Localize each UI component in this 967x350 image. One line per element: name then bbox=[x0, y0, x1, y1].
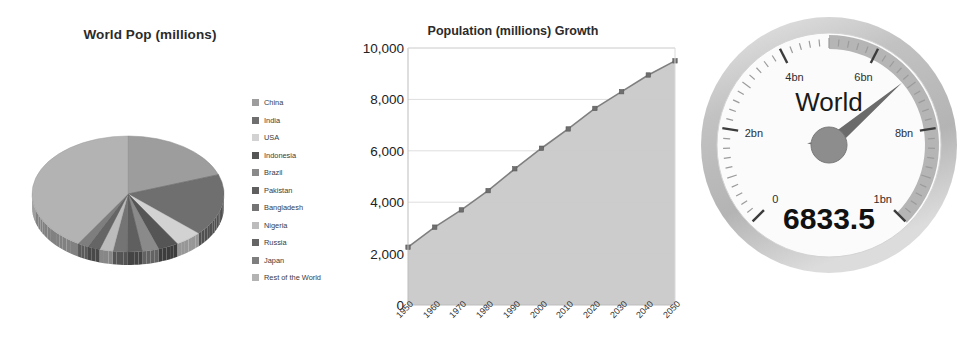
legend-item-label: Brazil bbox=[264, 169, 282, 176]
world-population-gauge: 02bn4bn6bn8bn1bn World 6833.5 bbox=[690, 0, 967, 350]
legend-item-label: Bangladesh bbox=[264, 204, 303, 211]
legend-swatch-icon bbox=[252, 134, 259, 141]
legend-swatch-icon bbox=[252, 204, 259, 211]
legend-swatch-icon bbox=[252, 222, 259, 229]
legend-item: China bbox=[252, 94, 342, 112]
gauge-graphic: 02bn4bn6bn8bn1bn World 6833.5 bbox=[698, 14, 960, 276]
legend-item-label: Nigeria bbox=[264, 222, 287, 229]
x-axis-tick-label: 2030 bbox=[608, 299, 629, 320]
gauge-hub bbox=[811, 127, 847, 163]
pie-legend: ChinaIndiaUSAIndonesiaBrazilPakistanBang… bbox=[252, 94, 342, 287]
legend-item: Brazil bbox=[252, 164, 342, 182]
legend-item-label: USA bbox=[264, 134, 279, 141]
legend-swatch-icon bbox=[252, 187, 259, 194]
legend-item-label: Rest of the World bbox=[264, 274, 321, 281]
legend-swatch-icon bbox=[252, 169, 259, 176]
legend-item: Pakistan bbox=[252, 182, 342, 200]
pie-chart-title: World Pop (millions) bbox=[0, 27, 300, 42]
x-axis-tick-label: 2040 bbox=[634, 299, 655, 320]
x-axis-tick-label: 2010 bbox=[554, 299, 575, 320]
legend-item-label: Indonesia bbox=[264, 152, 296, 159]
x-axis-tick-label: 1990 bbox=[501, 299, 522, 320]
legend-swatch-icon bbox=[252, 239, 259, 246]
x-axis-tick-labels: 1950196019701980199020002010202020302040… bbox=[340, 0, 690, 350]
legend-swatch-icon bbox=[252, 117, 259, 124]
legend-item-label: China bbox=[264, 99, 283, 106]
legend-item: Indonesia bbox=[252, 147, 342, 165]
x-axis-tick-label: 1960 bbox=[421, 299, 442, 320]
legend-item: Russia bbox=[252, 234, 342, 252]
legend-item: Japan bbox=[252, 252, 342, 270]
pie-graphic bbox=[28, 128, 228, 268]
legend-item: Rest of the World bbox=[252, 269, 342, 287]
x-axis-tick-label: 1970 bbox=[447, 299, 468, 320]
legend-item-label: Pakistan bbox=[264, 187, 292, 194]
legend-item: India bbox=[252, 112, 342, 130]
x-axis-tick-label: 2020 bbox=[581, 299, 602, 320]
legend-item: USA bbox=[252, 129, 342, 147]
legend-swatch-icon bbox=[252, 274, 259, 281]
legend-swatch-icon bbox=[252, 257, 259, 264]
x-axis-tick-label: 1980 bbox=[474, 299, 495, 320]
gauge-svg bbox=[698, 14, 960, 276]
legend-item-label: Russia bbox=[264, 239, 287, 246]
legend-item: Bangladesh bbox=[252, 199, 342, 217]
x-axis-tick-label: 2000 bbox=[528, 299, 549, 320]
x-axis-tick-label: 2050 bbox=[661, 299, 682, 320]
legend-swatch-icon bbox=[252, 99, 259, 106]
population-growth-area-chart: Population (millions) Growth 02,0004,000… bbox=[340, 0, 690, 350]
legend-item-label: Japan bbox=[264, 257, 284, 264]
pie-svg bbox=[28, 128, 228, 268]
legend-item-label: India bbox=[264, 117, 280, 124]
legend-item: Nigeria bbox=[252, 217, 342, 235]
legend-swatch-icon bbox=[252, 152, 259, 159]
world-population-pie-chart: World Pop (millions) ChinaIndiaUSAIndone… bbox=[0, 0, 340, 350]
x-axis-tick-label: 1950 bbox=[394, 299, 415, 320]
